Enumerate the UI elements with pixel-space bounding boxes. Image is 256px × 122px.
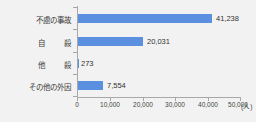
category-label-text-group: 他 殺 [38,59,71,70]
bar-homicide [78,59,79,68]
bar-suicide [78,37,143,46]
bar-value-homicide: 273 [81,59,94,68]
bar-value-suicide: 20,031 [147,37,170,46]
y-axis-tick [73,52,77,53]
bar-value-accidents: 41,238 [216,14,239,23]
y-axis-tick [73,29,77,30]
x-axis-line [77,97,241,98]
bar-value-other-external: 7,554 [107,81,126,90]
x-axis-unit-label: (人) [241,101,252,111]
category-label-text: その他の外因 [29,81,71,92]
bar-accidents [78,14,212,23]
x-axis-label-30000: 30,000 [165,101,185,108]
category-label-homicide: 他 殺 [0,59,74,70]
category-label-text: 他 [38,59,45,70]
x-axis-label-0: 0 [75,101,79,108]
y-axis-tick [73,7,77,8]
category-label-text: 自 [38,37,45,48]
x-axis-label-20000: 20,000 [133,101,153,108]
category-label-text: 不慮の事故 [36,14,71,25]
horizontal-bar-chart: 不慮の事故 自 殺 他 殺 その他の外因 41,238 20,031 273 7… [0,0,256,122]
category-label-accidents: 不慮の事故 [0,14,74,25]
bar-other-external [78,81,103,90]
category-label-text: 殺 [64,37,71,48]
category-label-suicide: 自 殺 [0,37,74,48]
x-axis-label-40000: 40,000 [198,101,218,108]
category-label-other-external: その他の外因 [0,81,74,92]
category-label-text: 殺 [64,59,71,70]
y-axis-tick [73,74,77,75]
category-label-text-group: 自 殺 [38,37,71,48]
x-axis-label-10000: 10,000 [100,101,120,108]
